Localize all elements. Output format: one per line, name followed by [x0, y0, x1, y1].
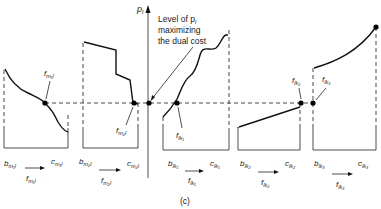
- lower-bound-label: bm₂l: [79, 157, 92, 167]
- point-label: fm₁l: [44, 69, 55, 79]
- flow-arrowhead-icon: [199, 169, 204, 173]
- annotation-pointer: [151, 47, 193, 100]
- price-axis: pl: [136, 4, 152, 178]
- flow-point: [174, 100, 179, 105]
- panel-bracket: [238, 127, 300, 150]
- cost-curve: [84, 42, 138, 104]
- cost-curve: [5, 69, 68, 132]
- flow-arrowhead-icon: [348, 172, 353, 176]
- point-pointer: [126, 107, 133, 125]
- cost-curve: [239, 107, 300, 127]
- panel-m1l: fm₁l bm₁l cm₁l fm₁l: [4, 69, 68, 184]
- point-pointer: [299, 88, 301, 99]
- lower-bound-label: blk₃: [314, 159, 325, 169]
- flow-point: [310, 100, 315, 105]
- flow-label: flk₂: [261, 178, 270, 188]
- point-pointer: [178, 107, 182, 128]
- cost-curve: [163, 35, 228, 117]
- annotation-line-2: maximizing: [158, 25, 201, 35]
- flow-arrowhead-icon: [116, 168, 121, 172]
- upper-bound-label: clk₁: [210, 159, 220, 169]
- flow-point: [131, 100, 136, 105]
- panel-lk2: flk₂ blk₂ clk₂ flk₂: [238, 76, 304, 188]
- upper-bound-label: cm₁l: [51, 157, 63, 167]
- curve-end-point: [373, 24, 378, 29]
- point-label: flk₃: [322, 75, 331, 85]
- axis-arrowhead-icon: [146, 5, 151, 13]
- point-label: flk₂: [292, 76, 301, 86]
- point-label: flk₁: [176, 131, 184, 141]
- point-pointer: [46, 81, 50, 99]
- flow-label: flk₃: [336, 180, 345, 190]
- figure-caption: (c): [180, 196, 190, 206]
- upper-bound-label: clk₃: [358, 159, 369, 169]
- panel-bracket: [4, 128, 68, 148]
- panel-m2l: fm₂l bm₂l cm₂l fm₂l: [79, 42, 140, 186]
- dual-cost-diagram: pl Level of pl maximizing the dual cost …: [0, 0, 381, 209]
- annotation: Level of pl maximizing the dual cost: [151, 14, 207, 101]
- lower-bound-label: bm₁l: [4, 159, 17, 169]
- cost-curve: [314, 27, 376, 68]
- point-label: fm₂l: [116, 126, 127, 136]
- flow-label: fm₁l: [26, 174, 37, 184]
- flow-point: [42, 100, 47, 105]
- flow-label: fm₂l: [101, 176, 112, 186]
- flow-label: flk₁: [188, 176, 196, 186]
- optimal-price-point: [146, 100, 151, 105]
- annotation-line-3: the dual cost: [158, 36, 207, 46]
- upper-bound-label: cm₂l: [127, 159, 140, 169]
- annotation-line-1: Level of pl: [158, 14, 197, 25]
- panel-bracket: [163, 128, 229, 150]
- upper-bound-label: clk₂: [285, 159, 296, 169]
- point-pointer: [316, 88, 326, 100]
- panel-bracket: [83, 128, 138, 148]
- flow-arrowhead-icon: [40, 166, 45, 170]
- flow-arrowhead-icon: [274, 170, 279, 174]
- axis-label: pl: [136, 4, 144, 15]
- panel-lk3: flk₃ blk₃ clk₃ flk₃: [310, 24, 378, 190]
- flow-point: [298, 100, 303, 105]
- lower-bound-label: blk₁: [168, 159, 178, 169]
- lower-bound-label: blk₂: [240, 159, 251, 169]
- panel-bracket: [313, 128, 376, 150]
- panel-lk1: flk₁ blk₁ clk₁ flk₁: [163, 30, 229, 186]
